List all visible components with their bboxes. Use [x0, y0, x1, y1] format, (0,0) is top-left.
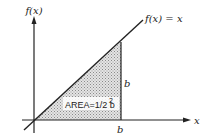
diagram-canvas: f(x) x f(x) = x b b AREA=1/2 b 2: [0, 0, 210, 140]
y-axis-label: f(x): [24, 5, 42, 16]
area-label-exponent: 2: [109, 97, 113, 104]
area-label: AREA=1/2 b: [65, 100, 115, 110]
function-label: f(x) = x: [144, 13, 183, 24]
horizontal-side-label: b: [117, 124, 123, 135]
vertical-side-label: b: [124, 78, 130, 89]
x-axis-arrow-icon: [183, 118, 191, 123]
x-axis-label: x: [194, 115, 200, 126]
y-axis-arrow-icon: [32, 16, 37, 24]
